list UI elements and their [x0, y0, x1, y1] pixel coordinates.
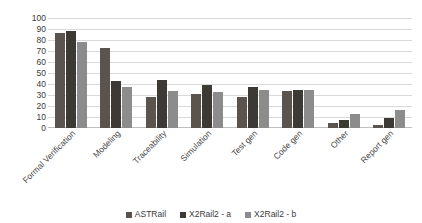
bar[interactable] — [100, 48, 110, 128]
y-tick-label: 80 — [20, 36, 46, 44]
x-axis-label-text: Code gen — [272, 129, 304, 161]
y-tick-label: 30 — [20, 91, 46, 99]
bar[interactable] — [202, 85, 212, 128]
bar[interactable] — [66, 31, 76, 128]
y-tick-label: 60 — [20, 58, 46, 66]
bar[interactable] — [293, 90, 303, 129]
x-axis-label-text: Formal Verification — [21, 129, 77, 185]
x-axis-label-text: Simulation — [179, 129, 213, 163]
legend-swatch-icon — [180, 212, 186, 218]
y-tick-label: 40 — [20, 80, 46, 88]
x-axis-label-text: Traceability — [131, 129, 168, 166]
y-tick-label: 100 — [20, 14, 46, 22]
legend-item[interactable]: ASTRail — [126, 210, 166, 219]
bar[interactable] — [248, 87, 258, 128]
y-tick-label: 90 — [20, 25, 46, 33]
bar[interactable] — [328, 123, 338, 129]
x-axis-label-text: Test gen — [230, 129, 259, 158]
x-axis-label-text: Modeling — [92, 129, 123, 160]
y-tick-label: 10 — [20, 113, 46, 121]
legend-item[interactable]: X2Rail2 - a — [180, 210, 231, 219]
legend-item[interactable]: X2Rail2 - b — [245, 210, 296, 219]
y-tick-label: 50 — [20, 69, 46, 77]
bar-chart: 1009080706050403020100 Formal Verificati… — [0, 0, 422, 223]
bar[interactable] — [146, 97, 156, 128]
plot-wrapper: 1009080706050403020100 Formal Verificati… — [0, 0, 422, 200]
bar[interactable] — [373, 125, 383, 128]
bar[interactable] — [237, 97, 247, 128]
legend-swatch-icon — [126, 212, 132, 218]
y-tick-label: 0 — [20, 124, 46, 132]
bar[interactable] — [282, 91, 292, 128]
y-tick-label: 70 — [20, 47, 46, 55]
y-tick-label: 20 — [20, 102, 46, 110]
chart-legend: ASTRailX2Rail2 - aX2Rail2 - b — [0, 210, 422, 219]
legend-swatch-icon — [245, 212, 251, 218]
x-axis-category-labels: Formal VerificationModelingTraceabilityS… — [48, 129, 412, 199]
legend-label: X2Rail2 - b — [254, 210, 296, 219]
legend-label: X2Rail2 - a — [189, 210, 231, 219]
legend-label: ASTRail — [135, 210, 166, 219]
x-axis-label-text: Report gen — [360, 129, 396, 165]
y-axis: 1009080706050403020100 — [20, 12, 46, 128]
x-axis-label-text: Other — [329, 129, 350, 150]
bar[interactable] — [55, 33, 65, 128]
bar[interactable] — [157, 80, 167, 128]
